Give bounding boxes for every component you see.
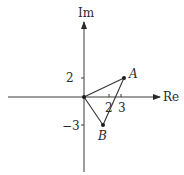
- complex-plane-diagram: Re Im 2 3 2 −3 A B: [0, 0, 184, 175]
- y-tick-label-2: 2: [66, 71, 74, 85]
- point-a: [122, 76, 126, 80]
- real-axis-label: Re: [163, 90, 179, 104]
- y-tick-label-neg3: −3: [62, 119, 80, 133]
- edge-b-origin: [84, 97, 103, 125]
- imaginary-axis-label: Im: [78, 6, 95, 20]
- point-a-label: A: [128, 67, 138, 81]
- point-origin: [82, 95, 86, 99]
- edge-origin-a: [84, 78, 124, 97]
- point-b-label: B: [97, 129, 107, 143]
- x-tick-label-3: 3: [118, 101, 126, 115]
- point-b: [101, 123, 105, 127]
